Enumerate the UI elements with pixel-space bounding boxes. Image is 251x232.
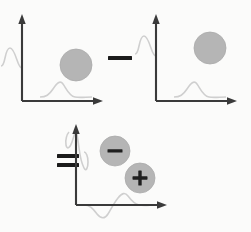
panel-a-canvas (0, 4, 110, 114)
minus-bar (108, 56, 132, 61)
blob-neutral (60, 49, 92, 81)
panel-a (0, 4, 110, 114)
blob-neutral (194, 32, 226, 64)
panel-c (62, 118, 182, 232)
blob-negative-sign (108, 149, 123, 152)
minus-operator: − (106, 48, 134, 68)
panel-a-x-axis (22, 97, 103, 104)
panel-b-x-profile (174, 82, 226, 97)
panel-c-x-axis (76, 201, 167, 208)
panel-b-y-axis (152, 14, 159, 101)
panel-c-canvas (62, 118, 182, 232)
panel-b-x-axis (156, 97, 237, 104)
difference-image-diagram: − = (0, 0, 251, 232)
panel-b-canvas (134, 4, 244, 114)
panel-b-y-profile (135, 36, 156, 56)
panel-a-y-axis (18, 14, 25, 101)
panel-a-y-profile (1, 48, 22, 68)
panel-b (134, 4, 244, 114)
panel-a-x-profile (40, 82, 92, 97)
